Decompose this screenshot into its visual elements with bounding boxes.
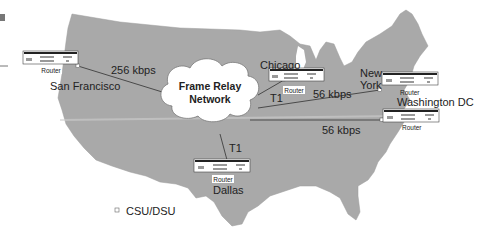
router-new-york — [382, 72, 438, 85]
router-washington-dc — [383, 109, 439, 122]
router-label-san-francisco: Router — [41, 67, 61, 74]
link-speed-san-francisco: 256 kbps — [111, 64, 156, 76]
csu-dsu-legend-icon — [115, 208, 119, 212]
cloud-label-line1: Frame Relay — [179, 80, 242, 92]
router-label-dallas: Router — [213, 176, 233, 183]
link-speed-washington-dc: 56 kbps — [322, 124, 361, 136]
link-speed-chicago: T1 — [270, 92, 283, 104]
router-san-francisco — [23, 51, 78, 64]
link-speed-new-york: 56 kbps — [313, 88, 352, 100]
router-label-chicago: Router — [284, 87, 304, 94]
frame-relay-diagram: Frame Relay Network — [0, 0, 486, 236]
router-label-new-york: Router — [400, 89, 420, 96]
city-san-francisco: San Francisco — [50, 80, 120, 92]
city-dallas: Dallas — [213, 184, 244, 196]
cloud-label-line2: Network — [189, 93, 231, 105]
legend: CSU/DSU — [115, 205, 176, 217]
city-washington-dc: Washington DC — [397, 96, 474, 108]
city-new-york-line1: New — [360, 67, 382, 79]
csu-dsu-icon — [76, 64, 80, 68]
city-chicago: Chicago — [260, 59, 300, 71]
link-speed-dallas: T1 — [229, 142, 242, 154]
router-dallas — [194, 159, 250, 172]
frame-relay-cloud: Frame Relay Network — [161, 59, 259, 122]
router-label-washington-dc: Router — [402, 124, 422, 131]
city-new-york-line2: York — [360, 79, 382, 91]
edge-mark — [0, 14, 5, 21]
legend-label: CSU/DSU — [126, 205, 176, 217]
